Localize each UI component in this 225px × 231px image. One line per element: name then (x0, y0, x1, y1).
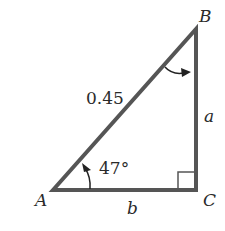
angle-arc-b (165, 67, 184, 73)
right-angle-marker (178, 172, 196, 190)
arrowhead-b-icon (181, 68, 191, 77)
vertex-label-a: A (33, 190, 47, 210)
vertex-label-c: C (203, 190, 216, 210)
side-label-b: b (127, 198, 138, 218)
vertex-label-b: B (198, 6, 212, 26)
triangle-diagram: A B C 0.45 a b 47° (0, 0, 225, 231)
angle-label-a: 47° (99, 158, 129, 178)
hypotenuse-label: 0.45 (86, 88, 124, 108)
arrowhead-a-icon (82, 163, 91, 172)
side-label-a: a (204, 106, 214, 126)
